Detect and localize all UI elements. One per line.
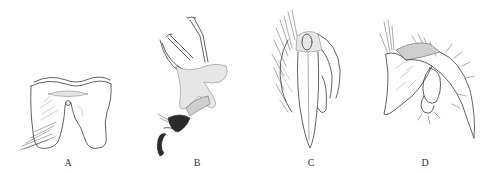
- figure: A B C D: [0, 0, 483, 174]
- panel-label-c: C: [301, 157, 321, 168]
- panel-label-a: A: [58, 157, 78, 168]
- panel-label-b: B: [187, 157, 207, 168]
- panel-label-d: D: [415, 157, 435, 168]
- panel-b-drawing: [157, 17, 227, 156]
- panel-c-drawing: [272, 10, 340, 148]
- panel-a-drawing: [20, 77, 111, 150]
- figure-drawings: [0, 0, 483, 174]
- panel-d-drawing: [380, 20, 475, 138]
